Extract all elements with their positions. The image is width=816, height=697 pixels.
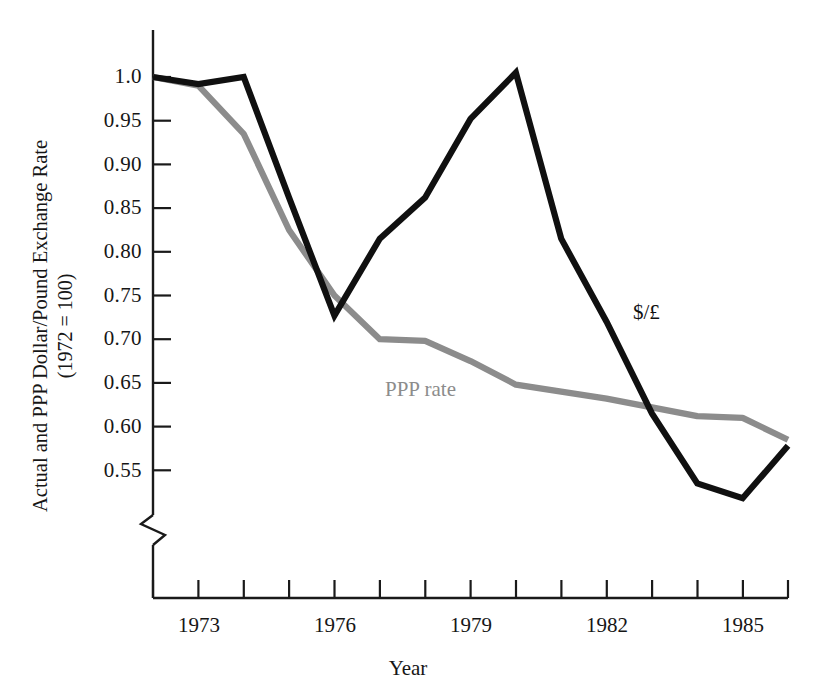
y-axis-ticks [153,77,171,470]
x-axis-ticks [153,580,788,598]
y-tick-label-0.55: 0.55 [68,458,142,483]
y-tick-label-0.75: 0.75 [68,283,142,308]
series-line-ppp-rate [153,77,788,440]
x-tick-label-1973: 1973 [158,613,240,638]
y-tick-label-1.0: 1.0 [68,64,142,89]
y-axis-title-line2: (1972 = 100) [53,106,79,546]
y-tick-label-0.80: 0.80 [68,239,142,264]
y-axis-title-line1: Actual and PPP Dollar/Pound Exchange Rat… [29,140,51,512]
y-tick-label-0.60: 0.60 [68,414,142,439]
y-tick-label-0.70: 0.70 [68,326,142,351]
exchange-rate-line-chart: 1.0 0.95 0.90 0.85 0.80 0.75 0.70 0.65 0… [0,0,816,697]
series-label-ppp-rate: PPP rate [385,377,456,402]
y-tick-label-0.65: 0.65 [68,370,142,395]
x-tick-label-1982: 1982 [566,613,648,638]
series-label-dollar-pound: $/£ [633,300,660,325]
x-tick-label-1985: 1985 [702,613,784,638]
y-axis-title: Actual and PPP Dollar/Pound Exchange Rat… [27,106,79,546]
y-axis-break-zigzag [141,515,165,545]
y-tick-label-0.90: 0.90 [68,152,142,177]
x-tick-label-1976: 1976 [294,613,376,638]
x-axis-title: Year [0,656,816,681]
y-tick-label-0.95: 0.95 [68,108,142,133]
y-tick-label-0.85: 0.85 [68,195,142,220]
x-tick-label-1979: 1979 [430,613,512,638]
